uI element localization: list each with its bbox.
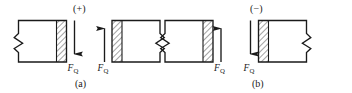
block-b-right	[251, 21, 311, 63]
block-b-left	[161, 21, 221, 63]
negative-sign-label: (−)	[250, 4, 263, 14]
force-subscript: Q	[220, 67, 225, 74]
hatch-band	[57, 21, 67, 63]
panel-a-caption: (a)	[75, 79, 86, 89]
block-a-left	[14, 21, 74, 63]
hatch-band	[203, 21, 213, 63]
positive-sign-label: (+)	[73, 4, 86, 14]
force-subscript: Q	[104, 67, 109, 74]
hatch-band	[112, 21, 122, 63]
force-symbol: F	[214, 63, 220, 73]
block-a-right	[105, 21, 165, 63]
force-subscript: Q	[74, 67, 79, 74]
force-label-block-b-left: FQ	[214, 64, 225, 74]
force-subscript: Q	[250, 67, 255, 74]
force-label-block-a-right: FQ	[98, 64, 109, 74]
force-label-block-a-left: FQ	[68, 64, 79, 74]
hatch-band	[259, 21, 269, 63]
figure-canvas	[0, 0, 352, 93]
panel-b-caption: (b)	[252, 79, 264, 89]
force-symbol: F	[244, 63, 250, 73]
force-label-block-b-right: FQ	[244, 64, 255, 74]
shear-force-sign-convention-figure: (+) (−) (a) (b) FQ FQ FQ FQ	[0, 0, 352, 93]
force-symbol: F	[68, 63, 74, 73]
force-symbol: F	[98, 63, 104, 73]
